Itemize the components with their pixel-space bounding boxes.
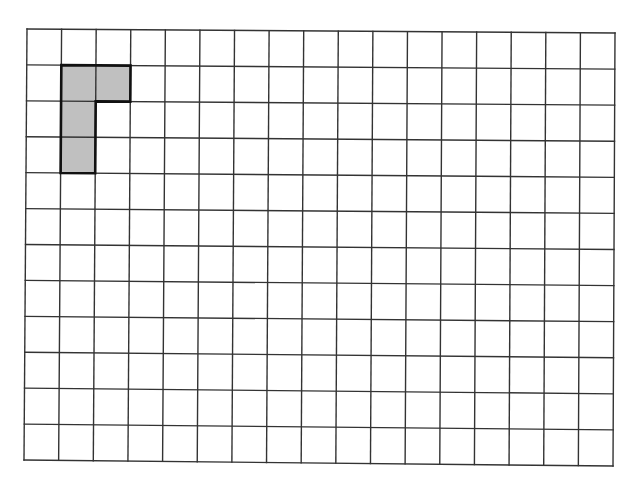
grid-diagram	[0, 0, 637, 490]
grid-canvas	[0, 0, 637, 490]
